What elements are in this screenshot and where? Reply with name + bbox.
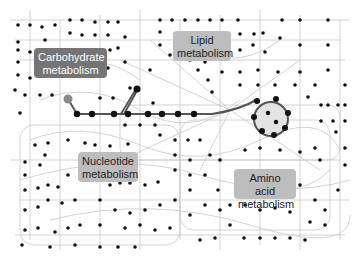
pathway-branch-node bbox=[134, 86, 141, 93]
label-line: metabolism bbox=[238, 198, 292, 211]
label-line: metabolism bbox=[82, 168, 134, 181]
label-line: Nucleotide bbox=[82, 155, 134, 168]
pathway-start-node bbox=[64, 95, 73, 104]
label-nucleotide-metabolism: Nucleotide metabolism bbox=[78, 152, 138, 182]
label-line: Amino acid bbox=[238, 172, 292, 198]
label-lipid-metabolism: Lipid metabolism bbox=[173, 31, 231, 61]
label-line: metabolism bbox=[177, 47, 227, 60]
label-line: Lipid bbox=[177, 34, 227, 47]
label-line: Carbohydrate bbox=[38, 51, 103, 64]
label-line: metabolism bbox=[38, 64, 103, 77]
label-carbohydrate-metabolism: Carbohydrate metabolism bbox=[34, 48, 107, 78]
label-amino-acid-metabolism: Amino acid metabolism bbox=[234, 169, 296, 199]
